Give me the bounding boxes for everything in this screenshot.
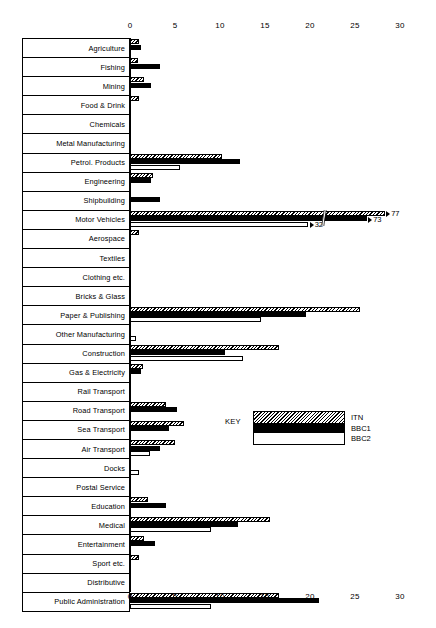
legend-swatch-bbc1 [254,423,344,434]
bar-bbc1 [130,369,141,374]
tick-top-30: 30 [395,21,404,30]
category-label: Textiles [23,249,129,268]
legend-swatch-bbc2 [254,433,344,444]
category-label: Sea Transport [23,421,129,440]
chart-row [130,305,436,324]
bar-bbc2 [130,165,180,170]
bar-bbc2 [130,336,136,341]
chart-row: 777332 [130,210,436,229]
bar-itn [130,402,166,407]
chart-row [130,496,436,515]
value-label: 73 [373,215,381,224]
bar-bbc1 [130,83,151,88]
category-label: Bricks & Glass [23,287,129,306]
category-label: Food & Drink [23,96,129,115]
bar-bbc1 [130,503,166,508]
category-label: Shipbuilding [23,192,129,211]
chart-row [130,95,436,114]
tick-bottom-10: 10 [215,592,224,601]
bar-bbc1 [130,178,151,183]
tick-top-0: 0 [128,21,133,30]
chart-row [130,382,436,401]
chart-row [130,458,436,477]
chart-row [130,515,436,534]
bar-bbc2 [130,222,308,227]
chart-row [130,191,436,210]
category-label: Road Transport [23,402,129,421]
category-label: Construction [23,345,129,364]
bar-bbc1 [130,426,169,431]
bar-bbc1 [130,407,177,412]
chart-row [130,324,436,343]
bar-bbc1 [130,541,155,546]
bar-bbc1 [130,522,238,527]
chart-row [130,229,436,248]
legend-label: ITN [351,413,363,422]
chart-row [130,57,436,76]
chart-row [130,363,436,382]
tick-top-20: 20 [305,21,314,30]
category-label: Postal Service [23,478,129,497]
category-label: Mining [23,77,129,96]
bar-bbc2 [130,527,211,532]
category-label: Chemicals [23,115,129,134]
tick-top-5: 5 [173,21,178,30]
category-label: Entertainment [23,535,129,554]
bar-bbc1 [130,350,225,355]
category-label-column: AgricultureFishingMiningFood & DrinkChem… [22,38,130,612]
tick-top-10: 10 [215,21,224,30]
category-label: Gas & Electricity [23,364,129,383]
bar-itn [130,230,139,235]
plot-area: 777332 [130,38,436,592]
category-label: Engineering [23,173,129,192]
category-label: Motor Vehicles [23,211,129,230]
chart-row [130,286,436,305]
chart-row [130,267,436,286]
bar-itn [130,364,143,369]
category-label: Other Manufacturing [23,325,129,344]
bar-bbc1 [130,312,306,317]
bar-bbc2 [130,470,139,475]
bar-itn [130,173,153,178]
chart-row [130,76,436,95]
bar-itn [130,77,144,82]
legend-row: BBC1 [254,423,344,434]
chart-row [130,38,436,57]
bar-itn [130,345,279,350]
arrow-icon [310,222,314,228]
category-label: Distributive [23,574,129,593]
category-label: Aerospace [23,230,129,249]
value-label: 77 [391,209,399,218]
legend-title: KEY [225,417,241,426]
category-label: Clothing etc. [23,268,129,287]
bar-itn [130,440,175,445]
tick-bottom-20: 20 [305,592,314,601]
bar-itn [130,211,385,216]
tick-bottom-30: 30 [395,592,404,601]
chart-row [130,534,436,553]
arrow-icon [368,217,372,223]
bar-bbc2 [130,356,243,361]
category-label: Fishing [23,58,129,77]
tick-bottom-15: 15 [260,592,269,601]
value-annotation: 77 [386,210,399,218]
category-label: Education [23,497,129,516]
bar-bbc1 [130,197,160,202]
legend-label: BBC2 [351,434,371,443]
category-label: Metal Manufacturing [23,134,129,153]
bar-itn [130,555,139,560]
bar-itn [130,536,144,541]
chart-row [130,554,436,573]
legend-swatch-itn [254,412,344,423]
chart-row [130,114,436,133]
chart-row [130,133,436,152]
tick-bottom-0: 0 [128,592,133,601]
bar-itn [130,96,139,101]
legend-row: ITN [254,412,344,423]
category-label: Agriculture [23,39,129,58]
chart-row [130,248,436,267]
legend-swatches: ITNBBC1BBC2 [253,411,345,445]
bar-itn [130,517,270,522]
bar-itn [130,497,148,502]
tick-top-25: 25 [350,21,359,30]
